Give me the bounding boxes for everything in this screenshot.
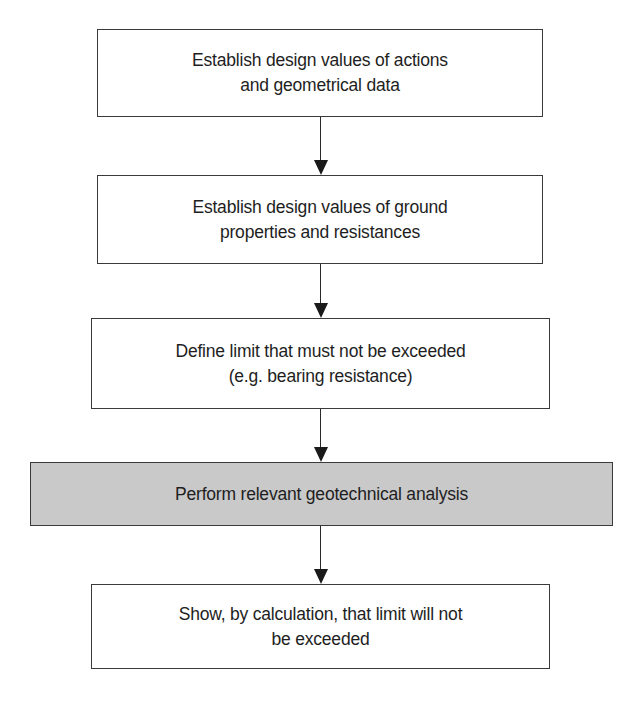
arrow-down-icon [314,409,328,462]
step-label: Perform relevant geotechnical analysis [175,482,468,507]
arrow-down-icon [314,526,328,584]
step-label: Define limit that must not be exceeded (… [175,339,465,389]
flowchart-step-define-limit: Define limit that must not be exceeded (… [91,318,550,409]
flowchart-step-establish-actions: Establish design values of actions and g… [97,29,543,117]
step-label: Establish design values of actions and g… [192,48,448,98]
arrow-down-icon [314,117,328,175]
flowchart-step-show-by-calculation: Show, by calculation, that limit will no… [91,584,550,669]
flowchart-step-establish-ground-properties: Establish design values of ground proper… [97,175,543,264]
step-label: Establish design values of ground proper… [192,195,447,245]
flowchart-step-perform-analysis: Perform relevant geotechnical analysis [30,462,613,526]
arrow-down-icon [314,264,328,318]
step-label: Show, by calculation, that limit will no… [179,602,463,652]
